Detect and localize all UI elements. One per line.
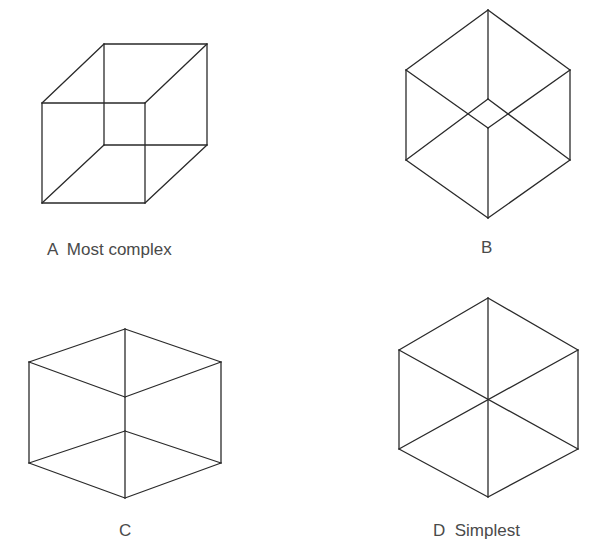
cube-figures-canvas: [0, 0, 606, 558]
figure-b-label: B: [481, 238, 492, 258]
figure-b-cube-near-corner: [406, 10, 570, 218]
figure-a-necker-cube: [42, 44, 207, 203]
figure-c-cube-split-center: [29, 329, 221, 498]
figure-d-cube-corner-on: [399, 298, 578, 497]
figure-c-label: C: [119, 521, 131, 541]
figure-d-label: D Simplest: [433, 521, 520, 541]
figure-a-label: A Most complex: [47, 240, 172, 260]
